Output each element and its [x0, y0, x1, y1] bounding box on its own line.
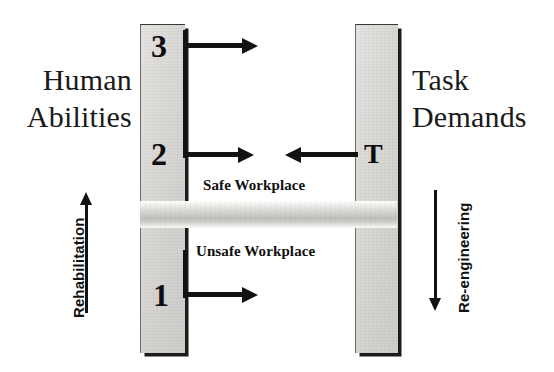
pillar-marker-2: 2 — [151, 138, 167, 170]
left-heading-line-1: Human — [6, 62, 132, 99]
right-heading-line-2: Demands — [412, 99, 552, 136]
pillar-marker-1: 1 — [153, 279, 169, 311]
safety-threshold-beam — [140, 201, 397, 228]
unsafe-workplace-label: Unsafe Workplace — [196, 243, 315, 260]
arrow-ability-level-1 — [183, 292, 243, 297]
re-engineering-arrow — [434, 190, 437, 300]
rehabilitation-label: Rehabilitation — [70, 217, 87, 318]
safe-workplace-label: Safe Workplace — [203, 177, 305, 194]
arrow-ability-level-2 — [183, 152, 239, 157]
left-heading: Human Abilities — [6, 62, 132, 135]
arrow-ability-level-3 — [183, 43, 243, 48]
arrow-task-demand-t — [300, 152, 358, 157]
re-engineering-label: Re-engineering — [455, 202, 472, 313]
pillar-marker-3: 3 — [151, 30, 167, 62]
arrow-stub-left-vertical — [183, 43, 187, 158]
right-heading-line-1: Task — [412, 62, 552, 99]
pillar-marker-t: T — [364, 140, 383, 168]
left-heading-line-2: Abilities — [6, 99, 132, 136]
task-demands-pillar — [355, 24, 398, 353]
right-heading: Task Demands — [412, 62, 552, 135]
diagram-canvas: Human Abilities Task Demands 3 2 1 T Saf… — [0, 0, 554, 372]
arrow-stub-level-1 — [183, 250, 187, 298]
